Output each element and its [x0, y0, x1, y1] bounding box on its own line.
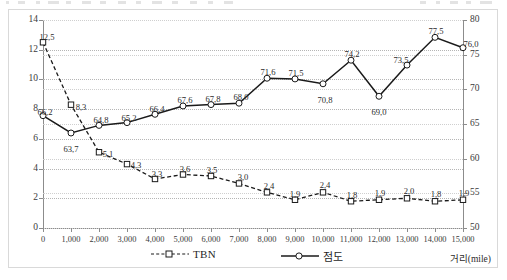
x-axis-tick-mark	[407, 228, 408, 232]
x-axis-tick-label: 12,000	[367, 236, 390, 244]
chart-legend: TBN 점도	[43, 248, 463, 264]
right-axis-tick-label: 80	[470, 15, 480, 25]
x-axis-tick-mark	[211, 228, 212, 232]
data-point-label: 64,8	[93, 116, 108, 125]
right-axis-tick-mark	[463, 159, 467, 160]
left-axis-tick-label: 12	[12, 45, 38, 55]
gridline-secondary	[43, 20, 463, 21]
data-point-label: 2,4	[320, 181, 331, 190]
data-point-label: 67,6	[177, 96, 192, 105]
left-axis-tick-mark	[39, 50, 43, 51]
x-axis-tick-label: 6,000	[202, 236, 221, 244]
data-point-label: 65,2	[121, 114, 136, 123]
data-point-label: 77,5	[428, 27, 443, 36]
data-point-label: 73,5	[393, 56, 408, 65]
right-axis-tick-label: 50	[470, 223, 480, 233]
left-axis-tick-label: 8	[12, 104, 38, 114]
legend-label-tbn: TBN	[193, 248, 216, 260]
x-axis-tick-mark	[379, 228, 380, 232]
data-point-label: 1,9	[375, 189, 386, 198]
data-point-label: 2,0	[404, 187, 415, 196]
x-axis-tick-mark	[267, 228, 268, 232]
data-point-label: 3,6	[180, 165, 191, 174]
x-axis-tick-mark	[43, 228, 44, 232]
data-point-label: 3,5	[207, 166, 218, 175]
x-axis-tick-label: 14,000	[423, 236, 446, 244]
right-axis-tick-label: 70	[470, 85, 480, 95]
gridline	[43, 139, 463, 140]
x-axis-tick-mark	[155, 228, 156, 232]
x-axis-tick-mark	[239, 228, 240, 232]
x-axis-tick-label: 8,000	[258, 236, 277, 244]
data-point-label: 71,5	[288, 69, 303, 78]
left-axis-tick-mark	[39, 20, 43, 21]
gridline	[43, 50, 463, 51]
x-axis-tick-mark	[99, 228, 100, 232]
x-axis-tick-label: 3,000	[118, 236, 137, 244]
right-axis-tick-mark	[463, 89, 467, 90]
data-point-label: 76,0	[463, 40, 478, 49]
x-axis-tick-mark	[463, 228, 464, 232]
legend-swatch-solid-circle	[281, 251, 319, 261]
legend-entry-jeomdo[interactable]: 점도	[281, 248, 344, 264]
gridline	[43, 79, 463, 80]
legend-entry-tbn[interactable]: TBN	[151, 248, 216, 260]
right-axis-tick-label: 65	[470, 119, 480, 129]
x-axis-tick-label: 0	[41, 236, 45, 244]
gridline-secondary	[43, 89, 463, 90]
data-point-label: 1,8	[431, 190, 442, 199]
left-axis-tick-mark	[39, 198, 43, 199]
x-axis-tick-label: 7,000	[230, 236, 249, 244]
data-point-label: 3,0	[238, 173, 249, 182]
data-point-label: 66,2	[37, 108, 52, 117]
left-axis-tick-label: 4	[12, 164, 38, 174]
data-point-label: 8,3	[76, 103, 87, 112]
data-point-label: 5,1	[103, 150, 114, 159]
data-point-label: 69,0	[371, 108, 386, 117]
right-axis-tick-label: 75	[470, 50, 480, 60]
data-point-label: 68,0	[233, 93, 248, 102]
left-axis-tick-label: 2	[12, 194, 38, 204]
right-axis-tick-label: 55	[470, 189, 480, 199]
x-axis-tick-mark	[183, 228, 184, 232]
x-axis-tick-label: 15,000	[451, 236, 474, 244]
x-axis-tick-label: 2,000	[90, 236, 109, 244]
right-axis-tick-mark	[463, 124, 467, 125]
x-axis-tick-label: 5,000	[174, 236, 193, 244]
cropped-text-artifact	[0, 0, 507, 7]
left-axis-tick-mark	[39, 139, 43, 140]
gridline-secondary	[43, 193, 463, 194]
data-point-label: 70,8	[317, 96, 332, 105]
gridline	[43, 169, 463, 170]
x-axis-tick-label: 9,000	[286, 236, 305, 244]
x-axis-tick-mark	[127, 228, 128, 232]
x-axis-tick-mark	[295, 228, 296, 232]
legend-label-jeomdo: 점도	[323, 248, 344, 264]
x-axis-tick-mark	[351, 228, 352, 232]
left-axis-tick-label: 6	[12, 134, 38, 144]
left-axis-tick-mark	[39, 79, 43, 80]
left-axis-tick-label: 14	[12, 15, 38, 25]
x-axis-tick-label: 1,000	[62, 236, 81, 244]
x-axis-title: 거리(mile)	[450, 251, 491, 265]
data-point-label: 1,8	[347, 191, 358, 200]
data-point-label: 3,3	[152, 170, 163, 179]
gridline-secondary	[43, 228, 463, 229]
data-point-label: 4,3	[131, 161, 142, 170]
right-axis-tick-mark	[463, 55, 467, 56]
x-axis-tick-mark	[435, 228, 436, 232]
data-point-label: 67,8	[205, 95, 220, 104]
x-axis-tick-label: 13,000	[395, 236, 418, 244]
x-axis-tick-label: 4,000	[146, 236, 165, 244]
left-axis-tick-label: 10	[12, 75, 38, 85]
data-point-label: 2,4	[264, 182, 275, 191]
x-axis-tick-label: 11,000	[340, 236, 363, 244]
right-axis-tick-label: 60	[470, 154, 480, 164]
gridline	[43, 109, 463, 110]
chart-figure: 02468101214 50556065707580 01,0002,0003,…	[0, 0, 507, 280]
data-point-label: 74,2	[344, 50, 359, 59]
data-point-label: 63,7	[63, 145, 78, 154]
data-point-label: 71,6	[260, 68, 275, 77]
x-axis-tick-mark	[323, 228, 324, 232]
gridline	[43, 198, 463, 199]
